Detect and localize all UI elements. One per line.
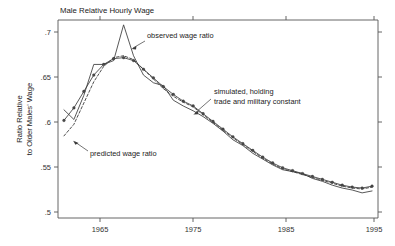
x-tick-label-1985: 1985	[278, 225, 295, 234]
x-tick-label-1995: 1995	[366, 225, 383, 234]
data-point-marker	[162, 85, 165, 88]
series-observed-wage-ratio	[64, 25, 372, 193]
chart-canvas: .7 .65 .6 .55 .5 1965 1975 1985 1995	[0, 0, 395, 246]
data-point-marker	[212, 120, 215, 123]
data-point-marker	[112, 57, 115, 60]
series-group	[63, 25, 374, 193]
data-point-marker	[251, 149, 254, 152]
annotation-simulated-label-line2: trade and military constant	[214, 97, 301, 106]
data-point-marker	[341, 184, 344, 187]
data-point-marker	[92, 74, 95, 77]
data-point-marker	[351, 186, 354, 189]
annotation-observed: observed wage ratio	[131, 31, 213, 49]
y-axis-title: Ratio Relative to Older Males' Wage	[15, 83, 34, 156]
data-point-marker	[361, 187, 364, 190]
data-point-marker	[142, 68, 145, 71]
y-tick-label-0.5: .5	[45, 208, 51, 217]
annotation-simulated-label-line1: simulated, holding	[214, 87, 274, 96]
annotation-predicted: predicted wage ratio	[73, 141, 156, 158]
series-predicted-wage-ratio	[64, 56, 372, 189]
data-point-marker	[291, 169, 294, 172]
data-point-marker	[102, 63, 105, 66]
data-point-marker	[311, 175, 314, 178]
data-point-marker	[331, 181, 334, 184]
data-point-marker	[281, 166, 284, 169]
y-tick-label-0.6: .6	[45, 118, 51, 127]
plot-frame	[58, 20, 378, 218]
annotation-simulated: simulated, holding trade and military co…	[193, 87, 300, 114]
data-point-marker	[232, 136, 235, 139]
data-point-marker	[301, 172, 304, 175]
data-point-marker	[73, 107, 76, 110]
series-simulated-wage-ratio	[64, 58, 372, 188]
y-tick-label-0.7: .7	[45, 28, 51, 37]
y-axis-title-line2: to Older Males' Wage	[25, 83, 34, 156]
chart-figure: .7 .65 .6 .55 .5 1965 1975 1985 1995	[0, 0, 395, 246]
data-point-marker	[82, 90, 85, 93]
x-tick-label-1965: 1965	[92, 225, 109, 234]
series-simulated-markers	[63, 56, 374, 189]
data-point-marker	[192, 105, 195, 108]
annotation-predicted-label: predicted wage ratio	[90, 149, 157, 158]
data-point-marker	[271, 162, 274, 165]
annotation-observed-arrowhead	[131, 46, 136, 50]
data-point-marker	[321, 178, 324, 181]
data-point-marker	[261, 156, 264, 159]
data-point-marker	[371, 185, 374, 188]
y-axis-title-line1: Ratio Relative	[15, 95, 24, 142]
data-point-marker	[63, 119, 66, 122]
annotation-simulated-arrow	[195, 99, 211, 113]
chart-title: Male Relative Hourly Wage	[60, 6, 154, 15]
annotation-observed-label: observed wage ratio	[147, 31, 214, 40]
data-point-marker	[182, 100, 185, 103]
data-point-marker	[122, 56, 125, 59]
data-point-marker	[152, 77, 155, 80]
data-point-marker	[202, 112, 205, 115]
y-tick-label-0.65: .65	[41, 73, 51, 82]
x-tick-label-1975: 1975	[185, 225, 202, 234]
y-axis-ticks: .7 .65 .6 .55 .5	[41, 28, 58, 217]
y-tick-label-0.55: .55	[41, 163, 51, 172]
data-point-marker	[222, 128, 225, 131]
data-point-marker	[132, 59, 135, 62]
data-point-marker	[241, 142, 244, 145]
data-point-marker	[172, 93, 175, 96]
